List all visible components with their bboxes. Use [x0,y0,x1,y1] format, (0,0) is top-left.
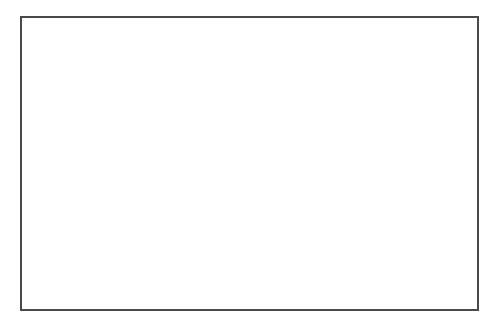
legend-item-pension-cost [351,128,382,152]
teacher-salaries-line-swatch [351,162,377,166]
legend-item-teacher-salaries [351,152,382,176]
plot-area [22,18,477,309]
line-chart [20,16,479,311]
legend [351,128,382,200]
pension-cost-line-swatch [351,138,377,142]
legend-item-soc-sec-salaries [351,176,382,200]
soc-sec-salaries-line-swatch [351,186,377,190]
